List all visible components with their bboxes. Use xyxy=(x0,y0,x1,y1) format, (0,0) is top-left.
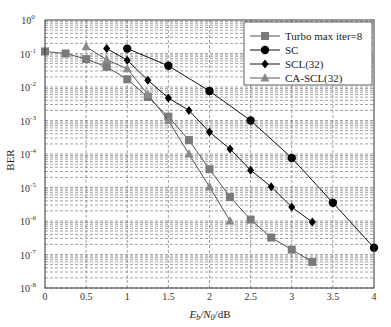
diamond-marker xyxy=(268,182,275,191)
legend-label: Turbo max iter=8 xyxy=(285,30,363,42)
y-axis-label: BER xyxy=(4,149,16,171)
x-tick-label: 3.5 xyxy=(327,291,340,302)
x-tick-label: 2.5 xyxy=(244,291,257,302)
square-marker xyxy=(82,55,90,63)
ber-chart: 10010-110-210-310-410-510-610-710-8 00.5… xyxy=(0,0,391,327)
triangle-marker xyxy=(123,64,132,73)
y-tick-label: 10-4 xyxy=(20,147,36,160)
y-tick-label: 10-6 xyxy=(20,214,36,227)
circle-marker xyxy=(164,62,172,70)
circle-marker xyxy=(205,87,213,95)
y-axis-ticks: 10010-110-210-310-410-510-610-710-8 xyxy=(20,13,36,294)
y-tick-label: 10-8 xyxy=(20,281,36,294)
legend-label: SCL(32) xyxy=(285,58,324,71)
x-tick-label: 4 xyxy=(372,291,377,302)
y-tick-label: 100 xyxy=(21,13,35,26)
triangle-marker xyxy=(205,182,214,191)
y-tick-label: 10-7 xyxy=(20,248,36,261)
x-tick-label: 3 xyxy=(289,291,294,302)
circle-marker xyxy=(329,199,337,207)
y-tick-label: 10-5 xyxy=(20,181,36,194)
diamond-marker xyxy=(165,93,172,102)
x-tick-label: 1.5 xyxy=(162,291,175,302)
square-marker xyxy=(123,75,131,83)
square-marker xyxy=(226,193,234,201)
diamond-marker xyxy=(124,56,131,65)
x-axis-ticks: 00.511.522.533.54 xyxy=(43,291,377,302)
square-marker xyxy=(103,63,111,71)
legend: Turbo max iter=8SCSCL(32)CA-SCL(32) xyxy=(244,22,372,85)
diamond-marker xyxy=(103,44,110,53)
triangle-marker xyxy=(226,216,235,225)
x-axis-label: Eb/N0/dB xyxy=(188,308,230,322)
square-marker xyxy=(185,136,193,144)
y-tick-label: 10-1 xyxy=(20,47,36,60)
legend-label: CA-SCL(32) xyxy=(285,72,343,85)
square-marker xyxy=(267,234,275,242)
diamond-marker xyxy=(309,218,316,227)
legend-label: SC xyxy=(285,44,298,56)
x-tick-label: 2 xyxy=(207,291,212,302)
triangle-marker xyxy=(184,149,193,158)
square-marker xyxy=(247,216,255,224)
circle-marker xyxy=(261,46,269,54)
circle-marker xyxy=(288,154,296,162)
circle-marker xyxy=(123,44,131,52)
triangle-marker xyxy=(102,55,111,64)
square-marker xyxy=(308,258,316,266)
square-marker xyxy=(62,50,70,58)
triangle-marker xyxy=(82,42,91,51)
square-marker xyxy=(288,246,296,254)
circle-marker xyxy=(246,116,254,124)
square-marker xyxy=(206,165,214,173)
x-tick-label: 1 xyxy=(125,291,130,302)
x-tick-label: 0 xyxy=(43,291,48,302)
y-tick-label: 10-3 xyxy=(20,114,36,127)
square-marker xyxy=(261,32,269,40)
y-tick-label: 10-2 xyxy=(20,80,36,93)
x-tick-label: 0.5 xyxy=(80,291,93,302)
